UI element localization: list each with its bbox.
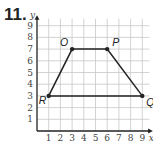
vertex-label-r: R	[39, 94, 47, 106]
x-tick-label: 4	[81, 133, 87, 143]
y-axis-label: y	[29, 10, 36, 20]
vertex-point-p	[105, 47, 109, 51]
x-tick-label: 6	[104, 133, 110, 143]
y-tick-label: 4	[27, 79, 33, 89]
y-tick-label: 5	[27, 68, 33, 78]
vertex-point-r	[47, 94, 51, 98]
y-axis-arrow-icon	[35, 15, 40, 20]
y-tick-label: 2	[27, 103, 33, 113]
y-tick-label: 8	[27, 32, 33, 42]
x-tick-label: 5	[93, 133, 99, 143]
y-tick-label: 1	[27, 114, 33, 124]
vertex-label-q: Q	[146, 96, 153, 108]
x-tick-label: 7	[116, 133, 122, 143]
x-tick-label: 3	[69, 133, 75, 143]
vertex-label-o: O	[60, 36, 68, 48]
vertex-label-p: P	[112, 36, 119, 48]
vertex-point-q	[140, 94, 144, 98]
x-axis-label: x	[149, 133, 153, 143]
x-tick-label: 9	[139, 133, 145, 143]
y-tick-label: 9	[27, 21, 33, 31]
x-tick-label: 8	[128, 133, 134, 143]
y-tick-label: 6	[27, 56, 33, 66]
x-tick-label: 2	[58, 133, 64, 143]
vertex-point-o	[70, 47, 74, 51]
x-tick-label: 1	[46, 133, 52, 143]
y-tick-label: 3	[27, 91, 33, 101]
y-tick-label: 7	[27, 44, 33, 54]
coordinate-plane: 123456789123456789xyROPQ	[0, 0, 153, 143]
